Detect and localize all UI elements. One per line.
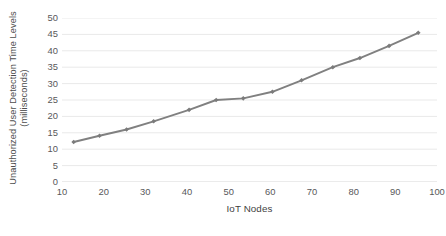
x-axis-tick-labels: 102030405060708090100 [62,186,437,200]
data-point-marker [151,119,156,124]
y-axis-tick-label: 35 [36,62,58,72]
y-axis-tick-label: 15 [36,128,58,138]
plot-canvas [62,18,437,182]
x-axis-tick-label: 40 [174,186,200,197]
y-axis-tick-label: 5 [36,161,58,171]
data-point-marker [187,108,192,113]
y-axis-tick-labels: 50454035302520151050 [32,18,58,182]
y-axis-tick-label: 25 [36,95,58,105]
x-axis-tick-label: 30 [132,186,158,197]
x-axis-tick-label: 70 [299,186,325,197]
x-axis-title: IoT Nodes [62,203,437,214]
line-chart: Unauthorized User Detection Time Levels … [0,0,446,236]
y-axis-tick-label: 45 [36,29,58,39]
data-point-marker [214,98,219,103]
x-axis-tick-label: 20 [91,186,117,197]
y-axis-tick-label: 10 [36,144,58,154]
x-axis-tick-label: 50 [216,186,242,197]
x-axis-tick-label: 80 [341,186,367,197]
y-axis-tick-label: 50 [36,13,58,23]
data-point-marker [124,127,129,132]
y-axis-title-line1: Unauthorized User Detection Time Levels [8,11,18,184]
y-axis-title-line2: (milliseconds) [19,11,30,184]
plot-area [62,18,437,182]
x-axis-tick-label: 100 [424,186,446,197]
y-axis-tick-label: 40 [36,46,58,56]
y-axis-tick-label: 30 [36,79,58,89]
x-axis-tick-label: 60 [257,186,283,197]
y-axis-tick-label: 20 [36,111,58,121]
data-point-marker [71,140,76,145]
series-line [74,33,419,142]
data-point-marker [97,133,102,138]
x-axis-tick-label: 10 [49,186,75,197]
x-axis-tick-label: 90 [382,186,408,197]
